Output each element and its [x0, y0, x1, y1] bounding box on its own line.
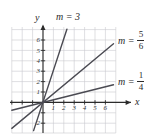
- y-tick-label-6: 6: [37, 37, 41, 44]
- x-tick-label-5: 5: [93, 105, 97, 112]
- slope-label-m14: m = 1 4: [118, 71, 144, 92]
- fraction-1-4-denominator: 4: [138, 83, 145, 92]
- plotted-lines: [12, 29, 114, 130]
- slope-label-m56: m = 5 6: [118, 30, 144, 51]
- fraction-5-6: 5 6: [137, 30, 144, 51]
- x-tick-label-1: 1: [52, 105, 56, 112]
- x-axis-label: x: [135, 97, 139, 107]
- y-axis-label: y: [35, 13, 39, 23]
- grid-lines: [12, 27, 116, 133]
- y-axis-arrowhead: [41, 25, 46, 31]
- slope-label-m56-lead: m =: [118, 36, 134, 46]
- y-tick-label-2: 2: [37, 79, 41, 86]
- fraction-5-6-denominator: 6: [138, 42, 145, 51]
- x-tick-label-3: 3: [72, 105, 76, 112]
- y-tick-label-neg-2: 2: [37, 120, 41, 127]
- slope-label-m14-lead: m =: [118, 77, 134, 87]
- fraction-1-4: 1 4: [137, 71, 144, 92]
- line-slope-5-6: [12, 44, 114, 129]
- slope-label-m3-text: m = 3: [56, 11, 80, 22]
- slope-label-m3: m = 3: [56, 12, 80, 22]
- fraction-5-6-numerator: 5: [138, 30, 145, 39]
- x-tick-label-4: 4: [83, 105, 87, 112]
- y-tick-label-5: 5: [37, 48, 41, 55]
- y-tick-label-4: 4: [37, 58, 41, 65]
- fraction-1-4-numerator: 1: [138, 71, 145, 80]
- x-axis-arrowhead: [126, 100, 131, 105]
- slope-comparison-figure: y x m = 3 m = 5 6 m = 1 4 1 2 3 4 5 6 1 …: [0, 0, 154, 139]
- x-tick-label-6: 6: [104, 105, 108, 112]
- y-tick-label-3: 3: [37, 68, 41, 75]
- x-tick-label-2: 2: [62, 105, 66, 112]
- y-tick-label-1: 1: [37, 89, 41, 96]
